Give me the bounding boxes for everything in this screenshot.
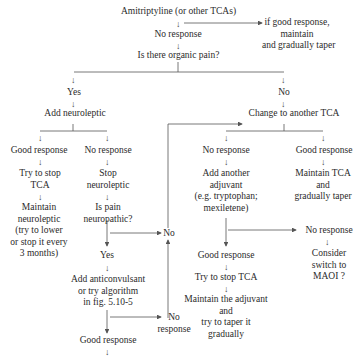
mid-no-label: No <box>162 228 176 240</box>
text-line: neuroleptic <box>4 214 74 226</box>
no-response-node: No response <box>140 29 216 41</box>
text-line: gradually taper <box>286 191 360 203</box>
text-line: adjuvant <box>186 180 266 192</box>
right-no-response: No response <box>190 145 262 157</box>
text-line: Consider <box>300 248 358 260</box>
down-arrow-icon: ↓ <box>38 134 43 143</box>
down-arrow-icon: ↓ <box>224 158 229 167</box>
down-arrow-icon: ↓ <box>325 238 330 247</box>
stop-neuroleptic-node: Stop neuroleptic <box>78 168 138 191</box>
text-line: (try to lower <box>4 225 74 237</box>
maintain-tca-node: Maintain TCA and gradually taper <box>286 168 360 203</box>
down-arrow-icon: ↓ <box>71 76 76 85</box>
start-node: Amitriptyline (or other TCAs) <box>120 6 237 18</box>
maoi-node: Consider switch to MAOI ? <box>300 248 358 283</box>
down-arrow-icon: ↓ <box>321 134 326 143</box>
left-good-response: Good response <box>4 145 74 157</box>
down-arrow-icon: ↓ <box>281 76 286 85</box>
down-arrow-icon: ↓ <box>321 158 326 167</box>
try-stop-tca-node: Try to stop TCA <box>10 168 70 191</box>
anticonvulsant-node: Add anticonvulsant or try algorithm in f… <box>66 274 150 309</box>
yes-label: Yes <box>60 87 88 99</box>
down-arrow-icon: ↓ <box>105 158 110 167</box>
down-arrow-icon: ↓ <box>38 158 43 167</box>
another-adjuvant-node: Add another adjuvant (e.g. tryptophan; m… <box>186 168 266 214</box>
neuropathic-yes-label: Yes <box>94 250 120 262</box>
text-line: Add anticonvulsant <box>66 274 150 286</box>
text-line: and gradually taper <box>262 40 332 52</box>
down-arrow-icon: ↓ <box>176 20 181 29</box>
down-arrow-icon: ↓ <box>224 263 229 272</box>
down-arrow-icon: ↓ <box>38 193 43 202</box>
text-line: switch to <box>300 260 358 272</box>
down-arrow-icon: ↓ <box>224 134 229 143</box>
text-line: Maintain TCA <box>286 168 360 180</box>
text-line: in fig. 5.10-5 <box>66 297 150 309</box>
right-good-response-2: Good response <box>190 250 262 262</box>
is-neuropathic-node: Is pain neuropathic? <box>78 202 138 225</box>
down-arrow-icon: ↓ <box>105 348 110 356</box>
text-line: or stop it every <box>4 237 74 249</box>
text-line: Is pain <box>78 202 138 214</box>
change-tca-node: Change to another TCA <box>244 108 344 120</box>
good-response-top: if good response, maintain and gradually… <box>262 17 332 52</box>
maintain-adjuvant-node: Maintain the adjuvant and try to taper i… <box>176 294 276 340</box>
text-line: MAOI ? <box>300 271 358 283</box>
text-line: maintain <box>262 29 332 41</box>
text-line: 3 months) <box>4 248 74 260</box>
right-good-response: Good response <box>288 145 360 157</box>
text-line: and <box>176 306 276 318</box>
down-arrow-icon: ↓ <box>105 193 110 202</box>
text-line: Stop <box>78 168 138 180</box>
down-arrow-icon: ↓ <box>105 264 110 273</box>
text-line: neuropathic? <box>78 214 138 226</box>
text-line: neuroleptic <box>78 180 138 192</box>
text-line: Maintain <box>4 202 74 214</box>
text-line: mexiletene) <box>186 203 266 215</box>
text-line: Maintain the adjuvant <box>176 294 276 306</box>
organic-pain-question: Is there organic pain? <box>120 50 237 62</box>
maintain-neuroleptic-node: Maintain neuroleptic (try to lower or st… <box>4 202 74 260</box>
text-line: gradually <box>176 329 276 341</box>
good-response-bottom: Good response <box>70 335 146 347</box>
no-label: No <box>270 87 298 99</box>
left-no-response: No response <box>76 145 140 157</box>
try-stop-tca-2-node: Try to stop TCA <box>186 272 266 284</box>
right-no-response-2: No response <box>298 225 360 237</box>
text-line: if good response, <box>262 17 332 29</box>
text-line: and <box>286 180 360 192</box>
text-line: Add another <box>186 168 266 180</box>
down-arrow-icon: ↓ <box>224 285 229 294</box>
down-arrow-icon: ↓ <box>105 134 110 143</box>
add-neuroleptic-node: Add neuroleptic <box>40 108 110 120</box>
text-line: or try algorithm <box>66 286 150 298</box>
text-line: TCA <box>10 180 70 192</box>
text-line: Try to stop <box>10 168 70 180</box>
text-line: try to taper it <box>176 317 276 329</box>
text-line: (e.g. tryptophan; <box>186 191 266 203</box>
